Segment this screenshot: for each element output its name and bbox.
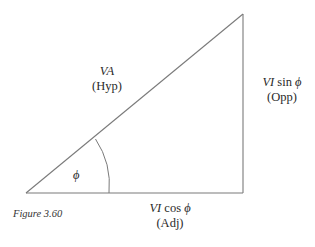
angle-arc	[96, 139, 110, 193]
adjacent-quantity: VI cos ϕ	[135, 201, 205, 216]
hypotenuse-quantity: VA	[82, 64, 132, 79]
adjacent-name: (Adj)	[135, 216, 205, 231]
adjacent-label: VI cos ϕ (Adj)	[135, 201, 205, 231]
angle-label: ϕ	[73, 168, 79, 183]
opposite-quantity: VI sin ϕ	[252, 75, 312, 90]
figure-caption: Figure 3.60	[13, 208, 62, 219]
hypotenuse-name: (Hyp)	[82, 79, 132, 94]
hypotenuse-label: VA (Hyp)	[82, 64, 132, 94]
hypotenuse-line	[26, 14, 243, 193]
opposite-name: (Opp)	[252, 90, 312, 105]
opposite-label: VI sin ϕ (Opp)	[252, 75, 312, 105]
